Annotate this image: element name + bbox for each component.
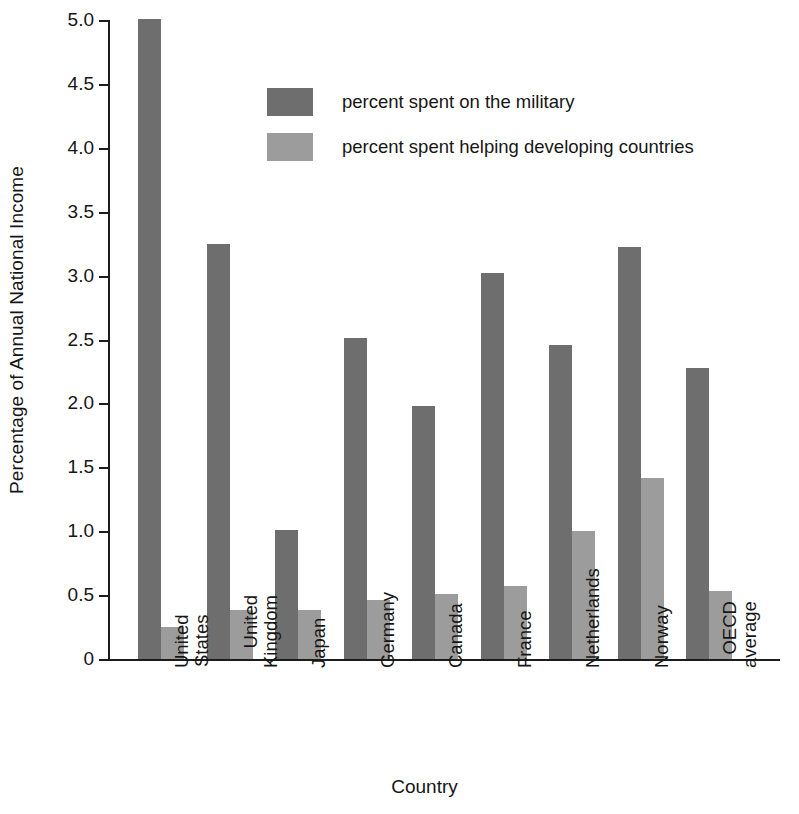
category-label-line: United [172,615,192,668]
x-axis-category-label: Canada [446,603,466,668]
y-tick-label: 1.5 [68,456,94,478]
y-tick-label: 3.5 [68,201,94,223]
x-axis-category-label: UnitedStates [172,615,212,668]
x-axis-category-label: Germany [378,592,398,668]
bar [138,19,161,659]
category-label-line: Kingdom [261,595,281,668]
bar [344,338,367,659]
x-axis-category-label: UnitedKingdom [241,595,281,668]
x-axis-title: Country [0,776,799,798]
legend-label-developing: percent spent helping developing countri… [342,136,694,158]
legend-item: percent spent on the military [267,84,694,120]
bar [618,247,641,659]
y-axis-title: Percentage of Annual National Income [0,0,34,660]
category-label-line: OECD [720,601,740,668]
category-label-line: Netherlands [583,568,603,668]
x-axis-category-label: Netherlands [583,568,603,668]
y-tick-label: 4.5 [68,73,94,95]
legend-swatch-developing [267,133,313,161]
x-axis-category-label: France [515,610,535,668]
x-axis-category-label: Norway [652,605,672,668]
bar-chart: Percentage of Annual National Income 00.… [0,0,799,814]
category-label-line: United [241,595,261,668]
category-label-line: average [740,601,760,668]
y-tick-label: 5.0 [68,9,94,31]
category-label-line: States [192,615,212,668]
category-label-line: France [515,610,535,668]
bar [549,345,572,659]
category-label-line: Japan [309,618,329,668]
y-tick-label: 4.0 [68,137,94,159]
y-tick-label: 3.0 [68,265,94,287]
category-label-line: Canada [446,603,466,668]
category-label-line: Norway [652,605,672,668]
y-tick-label: 2.0 [68,392,94,414]
legend-swatch-military [267,88,313,116]
bar [481,273,504,659]
x-axis-title-text: Country [391,776,458,797]
category-label-line: Germany [378,592,398,668]
x-axis-category-label: Japan [309,618,329,668]
legend-label-military: percent spent on the military [342,91,574,113]
y-tick-label: 2.5 [68,329,94,351]
y-tick-label: 1.0 [68,520,94,542]
y-tick-mark [99,659,109,661]
legend-item: percent spent helping developing countri… [267,129,694,165]
bar [412,406,435,659]
bar-group [207,20,253,659]
y-tick-label: 0.5 [68,584,94,606]
y-tick-label: 0 [83,648,94,670]
bar-group [138,20,184,659]
legend: percent spent on the military percent sp… [267,84,694,174]
x-axis-category-label: OECDaverage [720,601,760,668]
bar [686,368,709,659]
bar [207,244,230,659]
